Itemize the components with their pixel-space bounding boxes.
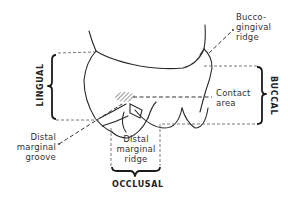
label-line: area xyxy=(216,98,250,108)
tooth-outline xyxy=(84,25,212,138)
distal-marginal-groove-label: Distal marginal groove xyxy=(8,132,56,162)
label-line: marginal xyxy=(8,142,56,152)
label-line: ridge xyxy=(112,154,160,164)
contact-area-hatch xyxy=(115,92,135,102)
label-line: Distal xyxy=(8,132,56,142)
label-line: ridge xyxy=(236,32,271,42)
distal-marginal-ridge-label: Distal marginal ridge xyxy=(112,134,160,164)
contact-area-label: Contact area xyxy=(216,88,250,108)
label-line: marginal xyxy=(112,144,160,154)
label-line: Bucco- xyxy=(236,12,271,22)
label-line: groove xyxy=(8,152,56,162)
lingual-side-label: LINGUAL xyxy=(36,67,45,107)
buccogingival-ridge-label: Bucco- gingival ridge xyxy=(236,12,271,42)
buccal-side-label: BUCCAL xyxy=(269,76,278,116)
label-line: Contact xyxy=(216,88,250,98)
occlusal-side-label: OCCLUSAL xyxy=(112,180,164,189)
label-line: Distal xyxy=(112,134,160,144)
label-line: gingival xyxy=(236,22,271,32)
